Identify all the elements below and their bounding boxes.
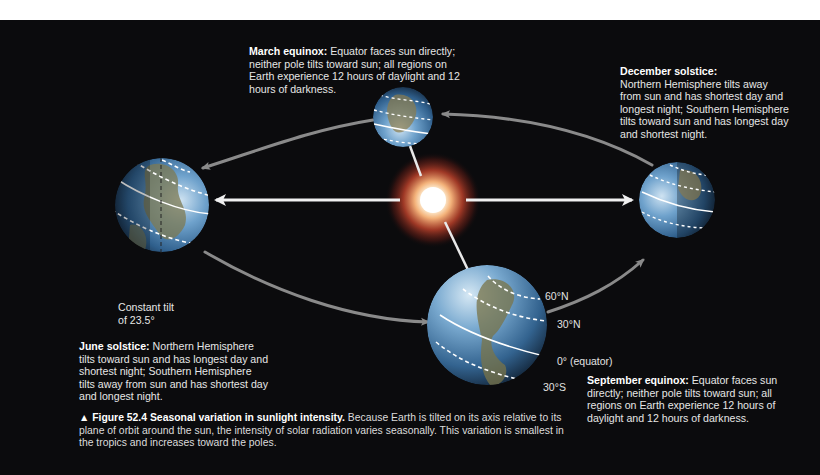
march-equinox-caption: March equinox: Equator faces sun directl… [249,45,469,95]
tilt-label-line2: of 23.5° [118,314,208,327]
june-solstice-heading: June solstice: [79,340,150,352]
earth-december-solstice [639,160,717,240]
december-solstice-caption: December solstice: Northern Hemisphere t… [620,65,790,141]
figure-caption: ▲ Figure 52.4 Seasonal variation in sunl… [79,412,579,450]
september-equinox-caption: September equinox: Equator faces sun dir… [587,374,787,424]
orbit-arrow-march-to-june [203,120,373,168]
figure-number: ▲ Figure 52.4 [79,412,147,423]
june-solstice-caption: June solstice: Northern Hemisphere tilts… [79,340,269,403]
seasons-diagram: March equinox: Equator faces sun directl… [0,20,820,475]
latitude-label-equator: 0° (equator) [557,355,613,367]
page-top-margin [0,0,820,20]
sun-core [420,187,446,213]
earth-march-equinox [373,87,433,147]
figure-title: Seasonal variation in sunlight intensity… [150,412,345,423]
december-solstice-heading: December solstice: [620,65,790,78]
latitude-label-60n: 60°N [545,290,568,302]
latitude-label-30n: 30°N [557,318,580,330]
september-equinox-heading: September equinox: [587,374,689,386]
tilt-label-line1: Constant tilt [118,301,208,314]
latitude-label-30s: 30°S [543,381,566,393]
earth-june-solstice [112,158,212,252]
december-solstice-text: Northern Hemisphere tilts away from sun … [620,78,789,140]
tilt-label: Constant tilt of 23.5° [118,301,208,326]
orbit-arrow-june-to-september [205,252,428,322]
orbit-arrow-september-to-december [548,260,643,312]
march-equinox-heading: March equinox: [249,45,327,57]
earth-september-equinox [427,265,548,385]
